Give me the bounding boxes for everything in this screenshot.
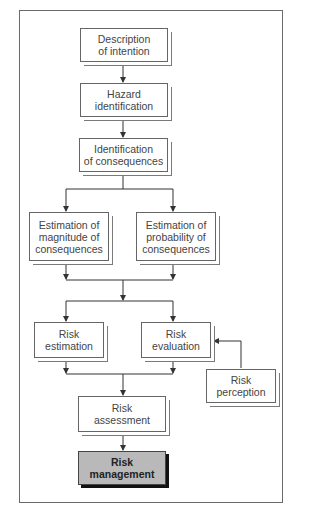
node-label: Hazard identification	[95, 88, 153, 112]
node-risk-perception: Risk perception	[206, 369, 276, 403]
node-label: Estimation of probability of consequence…	[142, 219, 210, 255]
node-label: Estimation of magnitude of consequences	[35, 219, 103, 255]
node-label: Description of intention	[98, 33, 151, 57]
node-label: Risk evaluation	[152, 328, 200, 352]
node-hazard-identification: Hazard identification	[80, 83, 168, 117]
node-label: Risk assessment	[94, 402, 150, 426]
node-label: Identification of consequences	[84, 143, 163, 167]
node-risk-management: Risk management	[78, 451, 166, 485]
node-estimation-of-probability: Estimation of probability of consequence…	[136, 212, 216, 261]
node-risk-assessment: Risk assessment	[78, 396, 166, 432]
node-risk-evaluation: Risk evaluation	[141, 322, 211, 358]
node-identification-of-consequences: Identification of consequences	[79, 138, 168, 172]
node-label: Risk estimation	[45, 328, 93, 352]
node-label: Risk management	[90, 456, 155, 480]
node-description-of-intention: Description of intention	[80, 28, 168, 62]
node-label: Risk perception	[216, 374, 265, 398]
node-risk-estimation: Risk estimation	[34, 322, 104, 358]
node-estimation-of-magnitude: Estimation of magnitude of consequences	[29, 212, 109, 261]
